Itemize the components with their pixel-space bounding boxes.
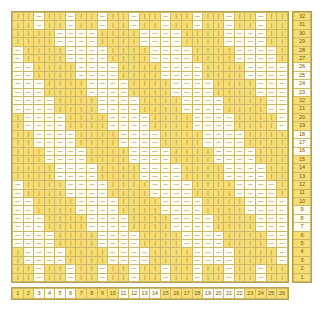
- chart-cell[interactable]: |: [150, 256, 161, 264]
- chart-cell[interactable]: —: [23, 256, 34, 264]
- chart-cell[interactable]: —: [129, 273, 140, 281]
- chart-cell[interactable]: |: [160, 239, 171, 247]
- chart-cell[interactable]: —: [224, 164, 235, 172]
- chart-cell[interactable]: |: [76, 122, 87, 130]
- chart-cell[interactable]: |: [245, 239, 256, 247]
- chart-cell[interactable]: |: [44, 71, 55, 79]
- chart-cell[interactable]: |: [86, 239, 97, 247]
- chart-cell[interactable]: —: [255, 13, 266, 21]
- chart-cell[interactable]: |: [44, 38, 55, 46]
- chart-cell[interactable]: |: [255, 155, 266, 163]
- chart-cell[interactable]: —: [182, 197, 193, 205]
- chart-cell[interactable]: |: [160, 248, 171, 256]
- chart-cell[interactable]: |: [34, 29, 45, 37]
- chart-cell[interactable]: |: [34, 38, 45, 46]
- chart-cell[interactable]: —: [97, 46, 108, 54]
- chart-cell[interactable]: —: [160, 13, 171, 21]
- chart-cell[interactable]: —: [171, 197, 182, 205]
- chart-cell[interactable]: —: [76, 63, 87, 71]
- chart-cell[interactable]: —: [266, 46, 277, 54]
- row-number-cell[interactable]: 30: [294, 29, 311, 37]
- chart-cell[interactable]: |: [171, 265, 182, 273]
- chart-cell[interactable]: —: [118, 139, 129, 147]
- chart-cell[interactable]: —: [86, 88, 97, 96]
- row-number-cell[interactable]: 15: [294, 155, 311, 163]
- chart-cell[interactable]: |: [277, 147, 288, 155]
- chart-cell[interactable]: |: [171, 139, 182, 147]
- chart-cell[interactable]: |: [203, 71, 214, 79]
- chart-cell[interactable]: —: [213, 239, 224, 247]
- chart-cell[interactable]: |: [139, 273, 150, 281]
- chart-cell[interactable]: —: [108, 223, 119, 231]
- column-number-cell[interactable]: 23: [245, 289, 256, 299]
- chart-cell[interactable]: |: [266, 21, 277, 29]
- column-number-cell[interactable]: 21: [224, 289, 235, 299]
- chart-cell[interactable]: |: [277, 181, 288, 189]
- column-number-cell[interactable]: 6: [65, 289, 76, 299]
- chart-cell[interactable]: |: [255, 122, 266, 130]
- chart-cell[interactable]: —: [150, 46, 161, 54]
- chart-cell[interactable]: —: [13, 214, 24, 222]
- chart-cell[interactable]: —: [255, 273, 266, 281]
- column-number-cell[interactable]: 4: [44, 289, 55, 299]
- chart-cell[interactable]: —: [224, 147, 235, 155]
- chart-cell[interactable]: —: [213, 147, 224, 155]
- chart-cell[interactable]: |: [203, 55, 214, 63]
- chart-cell[interactable]: —: [171, 206, 182, 214]
- chart-cell[interactable]: —: [118, 256, 129, 264]
- chart-cell[interactable]: —: [34, 80, 45, 88]
- chart-cell[interactable]: —: [245, 172, 256, 180]
- chart-cell[interactable]: |: [234, 71, 245, 79]
- chart-cell[interactable]: |: [55, 265, 66, 273]
- chart-cell[interactable]: |: [65, 231, 76, 239]
- chart-cell[interactable]: —: [182, 55, 193, 63]
- chart-cell[interactable]: |: [118, 155, 129, 163]
- chart-cell[interactable]: |: [76, 130, 87, 138]
- chart-cell[interactable]: |: [150, 223, 161, 231]
- chart-cell[interactable]: —: [44, 130, 55, 138]
- chart-cell[interactable]: —: [86, 164, 97, 172]
- chart-cell[interactable]: |: [182, 164, 193, 172]
- chart-cell[interactable]: |: [44, 214, 55, 222]
- chart-cell[interactable]: —: [65, 46, 76, 54]
- chart-cell[interactable]: —: [203, 105, 214, 113]
- chart-cell[interactable]: —: [55, 122, 66, 130]
- chart-cell[interactable]: —: [245, 63, 256, 71]
- chart-cell[interactable]: |: [13, 139, 24, 147]
- chart-cell[interactable]: |: [245, 256, 256, 264]
- chart-cell[interactable]: |: [55, 189, 66, 197]
- chart-cell[interactable]: —: [192, 122, 203, 130]
- chart-cell[interactable]: —: [44, 239, 55, 247]
- chart-cell[interactable]: |: [23, 155, 34, 163]
- chart-cell[interactable]: |: [224, 189, 235, 197]
- chart-cell[interactable]: —: [118, 80, 129, 88]
- chart-cell[interactable]: |: [55, 105, 66, 113]
- chart-cell[interactable]: —: [108, 97, 119, 105]
- chart-cell[interactable]: |: [213, 21, 224, 29]
- chart-cell[interactable]: |: [245, 122, 256, 130]
- column-number-cell[interactable]: 5: [55, 289, 66, 299]
- chart-cell[interactable]: —: [34, 248, 45, 256]
- chart-cell[interactable]: —: [160, 164, 171, 172]
- chart-cell[interactable]: —: [255, 223, 266, 231]
- chart-cell[interactable]: |: [160, 88, 171, 96]
- chart-cell[interactable]: |: [171, 239, 182, 247]
- chart-cell[interactable]: —: [182, 88, 193, 96]
- chart-cell[interactable]: |: [55, 13, 66, 21]
- chart-cell[interactable]: —: [234, 55, 245, 63]
- chart-cell[interactable]: —: [118, 105, 129, 113]
- chart-cell[interactable]: |: [108, 273, 119, 281]
- chart-cell[interactable]: —: [245, 206, 256, 214]
- chart-cell[interactable]: —: [160, 172, 171, 180]
- chart-cell[interactable]: —: [55, 113, 66, 121]
- chart-cell[interactable]: |: [224, 71, 235, 79]
- chart-cell[interactable]: —: [213, 139, 224, 147]
- chart-cell[interactable]: —: [171, 38, 182, 46]
- chart-cell[interactable]: |: [44, 80, 55, 88]
- chart-cell[interactable]: |: [277, 189, 288, 197]
- chart-cell[interactable]: |: [76, 88, 87, 96]
- chart-cell[interactable]: —: [266, 71, 277, 79]
- chart-cell[interactable]: |: [139, 181, 150, 189]
- chart-cell[interactable]: —: [182, 189, 193, 197]
- chart-cell[interactable]: —: [266, 231, 277, 239]
